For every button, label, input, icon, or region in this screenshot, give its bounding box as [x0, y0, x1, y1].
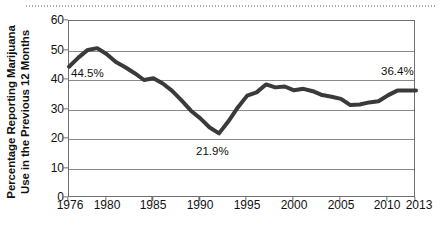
x-tick-label: 2005	[328, 199, 355, 211]
x-tick-label: 1990	[187, 199, 214, 211]
scan-artifact-rule	[26, 5, 436, 7]
y-tick-label: 60	[40, 14, 64, 26]
x-tick-label: 2010	[374, 199, 401, 211]
x-tick-label: 2000	[281, 199, 308, 211]
y-tick-label: 50	[40, 44, 64, 56]
chart-figure: Percentage Reporting Marijuana Use in th…	[0, 0, 442, 230]
plot-area	[68, 20, 415, 197]
y-axis-title-line2: Use in the Previous 12 Months	[18, 30, 32, 194]
annotation-2013: 36.4%	[381, 66, 414, 78]
x-tick-label: 1976	[57, 199, 84, 211]
data-series-line	[69, 21, 416, 198]
y-axis-title: Percentage Reporting Marijuana Use in th…	[0, 0, 36, 230]
y-tick-label: 40	[40, 73, 64, 85]
x-tick-label: 1985	[140, 199, 167, 211]
x-tick-label: 1995	[234, 199, 261, 211]
x-axis-labels: 1976 1980 1985 1990 1995 2000 2005 2010 …	[0, 199, 442, 221]
y-tick-label: 20	[40, 132, 64, 144]
y-tick-label: 10	[40, 162, 64, 174]
x-tick-label: 2013	[406, 199, 433, 211]
y-axis-title-line1: Percentage Reporting Marijuana	[4, 25, 18, 198]
y-axis-labels: 60 50 40 30 20 10 0	[40, 0, 64, 230]
y-tick-label: 30	[40, 103, 64, 115]
annotation-1976: 44.5%	[71, 68, 104, 80]
x-tick-label: 1980	[94, 199, 121, 211]
annotation-1992: 21.9%	[196, 146, 229, 158]
